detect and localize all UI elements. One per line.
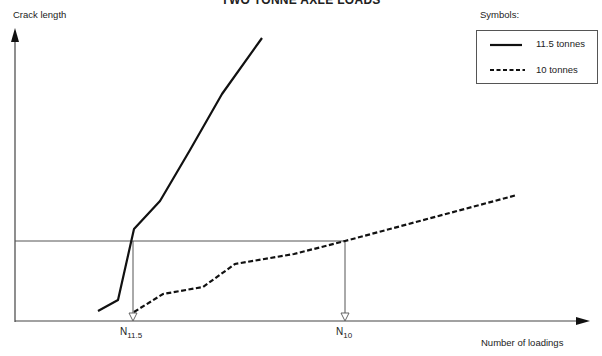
x-axis-label: Number of loadings <box>481 337 563 348</box>
y-axis-arrow-icon <box>11 28 19 42</box>
triangle-marker-icon <box>129 313 137 321</box>
series-11-5-tonnes <box>98 38 262 311</box>
tick-label-n-10: N10 <box>336 326 352 337</box>
triangle-marker-icon <box>341 313 349 321</box>
tick-label-n-11-5: N11.5 <box>120 326 142 337</box>
series-10-tonnes <box>134 195 517 312</box>
x-axis-arrow-icon <box>576 317 590 325</box>
chart-plot <box>0 0 602 356</box>
